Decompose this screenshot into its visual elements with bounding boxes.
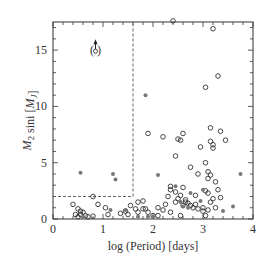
axis-ticks (53, 22, 253, 219)
filled-point (144, 93, 148, 97)
open-point (118, 211, 123, 216)
axis-labels: 01234051015log (Period) [days]M2 sini [M… (20, 43, 256, 253)
open-point (193, 202, 198, 207)
open-point (213, 180, 218, 185)
open-point (173, 154, 178, 159)
filled-point (146, 215, 150, 219)
open-point (188, 165, 193, 170)
open-point (216, 74, 221, 79)
filled-point (189, 191, 193, 195)
open-point (198, 145, 203, 150)
open-point (203, 160, 208, 165)
open-point (106, 212, 111, 217)
open-point (173, 190, 178, 195)
open-point (203, 213, 208, 218)
filled-point (231, 205, 235, 209)
open-point (141, 199, 146, 204)
open-point (216, 187, 221, 192)
open-point (203, 85, 208, 90)
y-tick-label: 5 (41, 156, 47, 170)
filled-point (124, 208, 128, 212)
open-point (163, 202, 168, 207)
open-point (181, 131, 186, 136)
open-point (218, 129, 223, 134)
filled-point (221, 209, 225, 213)
open-point (211, 26, 216, 31)
open-point (156, 205, 161, 210)
open-point (206, 208, 211, 213)
open-point (168, 187, 173, 192)
open-point (206, 176, 211, 181)
scatter-chart: ( ) 01234051015log (Period) [days]M2 sin… (0, 0, 267, 259)
y-tick-label: 15 (35, 43, 47, 57)
open-point (168, 210, 173, 215)
filled-point (81, 215, 85, 219)
open-point (166, 194, 171, 199)
open-point (146, 131, 151, 136)
open-point (196, 207, 201, 212)
open-point (126, 212, 131, 217)
x-tick-label: 3 (200, 222, 206, 236)
open-point (193, 193, 198, 198)
filled-point (174, 184, 178, 188)
open-point (178, 213, 183, 218)
open-point (103, 205, 108, 210)
open-point (173, 200, 178, 205)
filled-point (151, 215, 155, 219)
open-point (211, 196, 216, 201)
filled-point (186, 206, 190, 210)
x-axis-label: log (Period) [days] (108, 239, 199, 253)
open-point (146, 210, 151, 215)
open-point (96, 202, 101, 207)
x-tick-label: 2 (150, 222, 156, 236)
plot-border (53, 22, 253, 219)
open-point (136, 210, 141, 215)
open-point (181, 185, 186, 190)
filled-point (181, 205, 185, 209)
open-point (136, 200, 141, 205)
open-point (128, 203, 133, 208)
open-point (223, 138, 228, 143)
open-point (218, 195, 223, 200)
open-point (161, 135, 166, 140)
filled-point (79, 171, 83, 175)
filled-point (136, 215, 140, 219)
filled-point (111, 172, 115, 176)
x-tick-label: 0 (50, 222, 56, 236)
open-point (211, 146, 216, 151)
x-tick-label: 1 (100, 222, 106, 236)
arrow-head-icon (94, 39, 98, 44)
filled-point (114, 178, 118, 182)
open-point (178, 193, 183, 198)
filled-point (239, 172, 243, 176)
open-point (71, 202, 76, 207)
filled-point (201, 188, 205, 192)
y-tick-label: 0 (41, 212, 47, 226)
open-point (161, 208, 166, 213)
filled-point (156, 173, 160, 177)
filled-point (179, 200, 183, 204)
open-point (213, 205, 218, 210)
open-point (208, 126, 213, 131)
plot-area (53, 22, 253, 219)
open-point (196, 172, 201, 177)
filled-point (109, 208, 113, 212)
open-point (156, 213, 161, 218)
filled-point (199, 199, 203, 203)
open-point (201, 209, 206, 214)
annotation-arrow-point: ( ) (90, 39, 101, 57)
x-tick-label: 4 (250, 222, 256, 236)
